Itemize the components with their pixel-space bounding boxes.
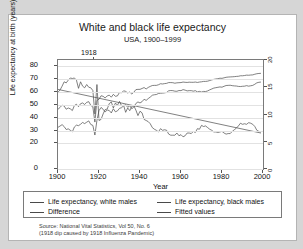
- gridline: [58, 143, 263, 144]
- gridline: [58, 92, 263, 93]
- x-tick-mark: [221, 170, 222, 173]
- right-tick-label: 10: [267, 111, 273, 118]
- x-tick-mark: [262, 170, 263, 173]
- legend-item-label: Life expectancy, white males: [48, 198, 137, 205]
- y-tick-label: 30: [16, 125, 38, 134]
- y-tick-label: 50: [16, 99, 38, 108]
- x-tick-mark: [98, 170, 99, 173]
- x-tick-mark: [180, 170, 181, 173]
- legend-item-label: Life expectancy, black males: [175, 198, 264, 205]
- series-line: [58, 82, 261, 135]
- legend-swatch: [30, 212, 44, 213]
- y-axis-label: Life expectancy at birth (years): [9, 0, 16, 103]
- legend-swatch: [157, 202, 171, 203]
- right-tick-label: 20: [267, 56, 273, 63]
- y-tick-label: 60: [16, 86, 38, 95]
- y-tick-label: 80: [16, 60, 38, 69]
- x-tick-label: 2000: [247, 172, 277, 181]
- gridline: [58, 105, 263, 106]
- source-note-line2: (1918 dip caused by 1918 Influenza Pande…: [39, 230, 154, 236]
- y-tick-label: 70: [16, 73, 38, 82]
- chart-subtitle: USA, 1900–1999: [9, 35, 296, 44]
- gridline: [58, 131, 263, 132]
- x-tick-label: 1900: [42, 172, 72, 181]
- x-tick-label: 1980: [206, 172, 236, 181]
- x-tick-label: 1920: [83, 172, 113, 181]
- plot-area: [57, 59, 264, 170]
- right-tick-mark: [264, 168, 267, 169]
- right-tick-label: 5: [267, 141, 273, 144]
- x-tick-mark: [57, 170, 58, 173]
- chart-title: White and black life expectancy: [9, 21, 296, 33]
- plot-lines: [58, 60, 263, 169]
- figure-panel: White and black life expectancy USA, 190…: [8, 14, 297, 241]
- legend-swatch: [157, 212, 171, 213]
- x-tick-label: 1960: [165, 172, 195, 181]
- right-tick-label: 15: [267, 84, 273, 91]
- gridline: [58, 118, 263, 119]
- source-note-line1: Source: National Vital Statistics, Vol 5…: [39, 223, 150, 229]
- x-axis-label: Year: [57, 182, 264, 191]
- x-tick-mark: [139, 170, 140, 173]
- series-line: [58, 89, 261, 133]
- legend-item-label: Difference: [48, 208, 80, 215]
- right-tick-mark: [264, 86, 267, 87]
- gridline: [58, 169, 263, 170]
- y-tick-label: 0: [16, 163, 38, 172]
- right-tick-label: 0: [267, 169, 273, 172]
- y-tick-label: 20: [16, 137, 38, 146]
- right-tick-mark: [264, 141, 267, 142]
- legend-item-label: Fitted values: [175, 208, 215, 215]
- legend-swatch: [30, 202, 44, 203]
- right-tick-mark: [264, 59, 267, 60]
- x-tick-label: 1940: [124, 172, 154, 181]
- gridline: [58, 79, 263, 80]
- gridline: [58, 66, 263, 67]
- series-line: [58, 73, 261, 122]
- chart-legend: Life expectancy, white malesLife expecta…: [23, 191, 282, 218]
- y-tick-label: 40: [16, 112, 38, 121]
- annotation-1918: 1918: [81, 49, 97, 56]
- series-line: [58, 78, 261, 137]
- right-tick-mark: [264, 114, 267, 115]
